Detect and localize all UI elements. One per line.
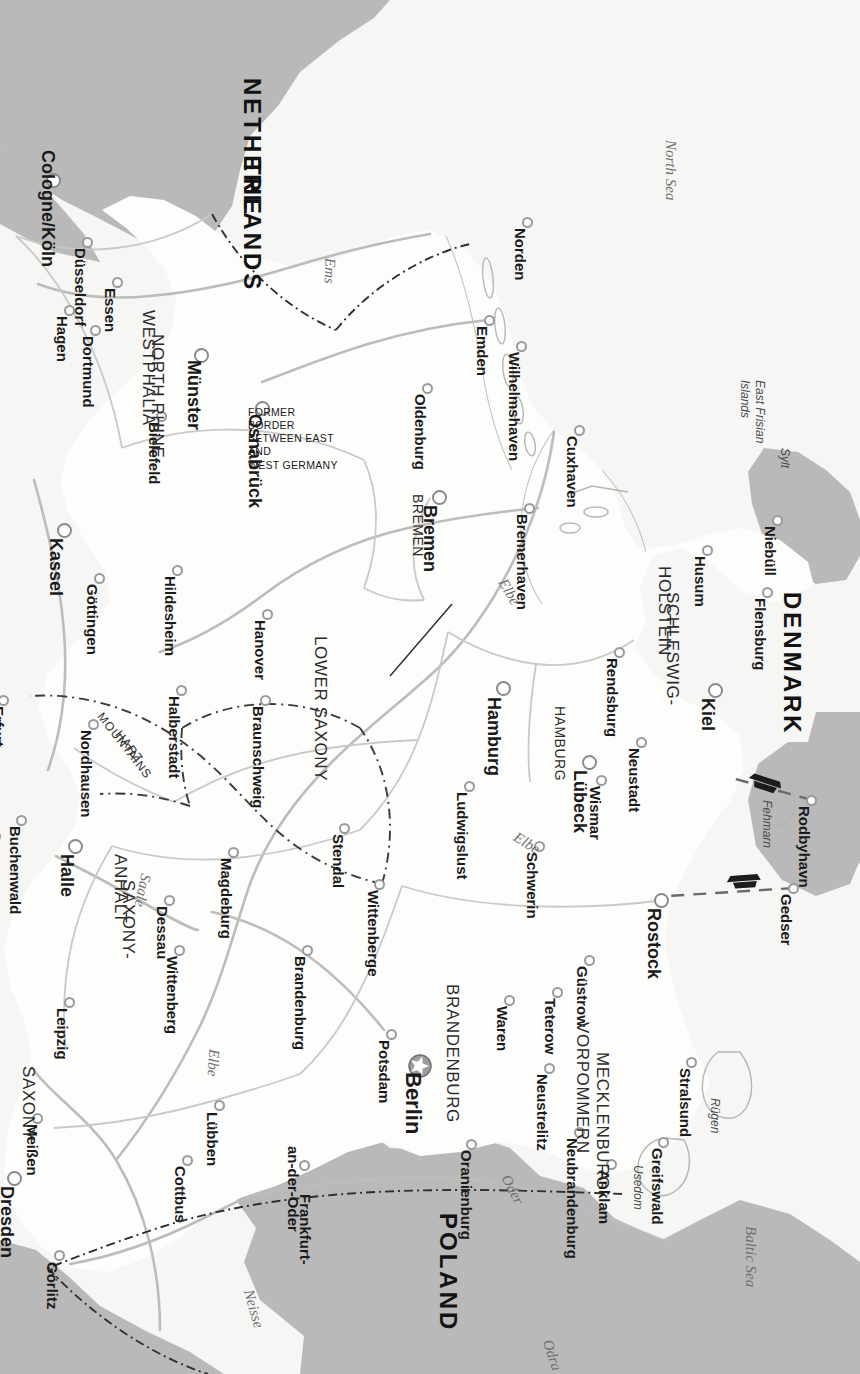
- former-border-line-2: BETWEEN EAST AND: [248, 432, 340, 458]
- city-dot-waren[interactable]: [505, 995, 516, 1006]
- city-dot-meissen[interactable]: [33, 1113, 44, 1124]
- city-dot-halle[interactable]: [69, 839, 84, 854]
- city-dot-gottingen[interactable]: [95, 573, 106, 584]
- city-dot-bremen[interactable]: [433, 490, 448, 505]
- city-dot-dortmund[interactable]: [91, 325, 102, 336]
- map-viewport[interactable]: BerlinHamburgBremenLübeckKielHalleKassel…: [0, 0, 860, 1374]
- city-dot-wittenberge[interactable]: [375, 879, 386, 890]
- city-dot-magdeburg[interactable]: [229, 847, 240, 858]
- city-dot-wilhelmshaven[interactable]: [517, 341, 528, 352]
- city-dot-greifswald[interactable]: [659, 1137, 670, 1148]
- city-dot-neustrelitz[interactable]: [545, 1063, 556, 1074]
- city-dot-cottbus[interactable]: [183, 1155, 194, 1166]
- city-dot-leipzig[interactable]: [65, 997, 76, 1008]
- city-dot-potsdam[interactable]: [387, 1029, 398, 1040]
- city-dot-ludwigslust[interactable]: [465, 781, 476, 792]
- capital-marker-berlin[interactable]: [407, 1053, 433, 1079]
- city-dot-wittenberg[interactable]: [175, 945, 186, 956]
- city-dot-hanover[interactable]: [263, 609, 274, 620]
- city-dot-dessau[interactable]: [165, 895, 176, 906]
- city-dot-neustadt[interactable]: [637, 737, 648, 748]
- city-dot-rostock[interactable]: [655, 893, 670, 908]
- city-dot-teterow[interactable]: [553, 987, 564, 998]
- city-dot-rodbyhavn[interactable]: [807, 795, 818, 806]
- city-dot-halberstadt[interactable]: [177, 685, 188, 696]
- city-dot-bielefeld[interactable]: [157, 411, 168, 422]
- city-dot-oldenburg[interactable]: [423, 383, 434, 394]
- city-dot-cologne-koln[interactable]: [47, 173, 62, 188]
- map-page: 16: [0, 0, 860, 1374]
- city-dot-an-der-oder[interactable]: [300, 1160, 311, 1171]
- city-dot-cuxhaven[interactable]: [575, 425, 586, 436]
- city-dot-gustrow[interactable]: [585, 955, 596, 966]
- city-dot-bremerhaven[interactable]: [525, 503, 536, 514]
- city-dot-lubeck[interactable]: [583, 755, 598, 770]
- city-dot-gedser[interactable]: [789, 883, 800, 894]
- city-dot-neubrandenburg[interactable]: [575, 1127, 586, 1138]
- map-canvas[interactable]: BerlinHamburgBremenLübeckKielHalleKassel…: [0, 0, 860, 1374]
- city-dot-hagen[interactable]: [65, 305, 76, 316]
- former-border-line-3: WEST GERMANY: [248, 459, 340, 472]
- city-dot-anklam[interactable]: [607, 1159, 618, 1170]
- city-dot-buchenwald[interactable]: [17, 815, 28, 826]
- former-border-annotation: FORMER BORDER BETWEEN EAST AND WEST GERM…: [248, 406, 340, 472]
- city-dot-kiel[interactable]: [709, 683, 724, 698]
- city-dot-stralsund[interactable]: [687, 1057, 698, 1068]
- city-dot-emden[interactable]: [485, 315, 496, 326]
- city-dot-gorlitz[interactable]: [55, 1250, 66, 1261]
- city-dot-braunschweig[interactable]: [261, 695, 272, 706]
- city-dot-wismar[interactable]: [597, 775, 608, 786]
- city-dot-munster[interactable]: [195, 348, 210, 363]
- map-geography: [0, 0, 860, 1374]
- city-dot-nordhausen[interactable]: [89, 719, 100, 730]
- city-dot-stendal[interactable]: [340, 823, 351, 834]
- city-dot-essen[interactable]: [113, 277, 124, 288]
- city-dot-husum[interactable]: [703, 545, 714, 556]
- city-dot-oranienburg[interactable]: [467, 1139, 478, 1150]
- city-dot-kassel[interactable]: [58, 523, 73, 538]
- city-dot-niebull[interactable]: [773, 515, 784, 526]
- city-dot-flensburg[interactable]: [763, 587, 774, 598]
- city-dot-brandenburg[interactable]: [303, 945, 314, 956]
- former-border-line-1: FORMER BORDER: [248, 406, 340, 432]
- city-dot-schwerin[interactable]: [535, 841, 546, 852]
- city-dot-lubben[interactable]: [215, 1100, 226, 1111]
- city-dot-hamburg[interactable]: [497, 681, 512, 696]
- city-dot-dusseldorf[interactable]: [83, 237, 94, 248]
- city-dot-dresden[interactable]: [8, 1171, 23, 1186]
- city-dot-norden[interactable]: [523, 217, 534, 228]
- city-dot-hildesheim[interactable]: [173, 565, 184, 576]
- city-dot-rendsburg[interactable]: [615, 647, 626, 658]
